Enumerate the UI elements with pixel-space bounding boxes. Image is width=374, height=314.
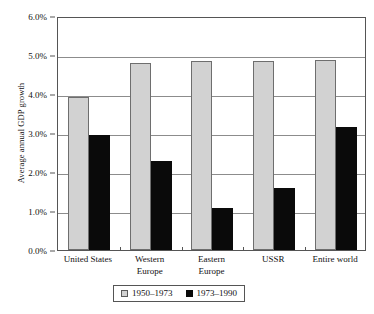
bar <box>315 60 336 250</box>
x-category-label-line: USSR <box>242 254 304 266</box>
bar <box>89 135 110 250</box>
x-category-label-line: Entire world <box>304 254 366 266</box>
bar-group <box>182 18 244 250</box>
x-category-label: USSR <box>242 254 304 266</box>
y-tick-label: 5.0% <box>28 51 47 61</box>
black-square-icon <box>186 290 193 297</box>
legend-label: 1973–1990 <box>197 288 238 298</box>
y-tick-mark <box>50 212 55 213</box>
bar-group <box>243 18 305 250</box>
y-tick-label: 3.0% <box>28 129 47 139</box>
y-tick-label: 0.0% <box>28 246 47 256</box>
x-axis-category-labels: United StatesWesternEuropeEasternEuropeU… <box>57 254 366 288</box>
y-tick-label: 2.0% <box>28 168 47 178</box>
x-category-label: EasternEurope <box>181 254 243 277</box>
y-tick-mark <box>50 95 55 96</box>
y-tick-mark <box>50 134 55 135</box>
y-tick-mark <box>50 17 55 18</box>
y-tick-label: 6.0% <box>28 12 47 22</box>
legend-item: 1950–1973 <box>121 288 173 298</box>
y-axis-tick-labels: 0.0%1.0%2.0%3.0%4.0%5.0%6.0% <box>0 17 55 251</box>
x-category-label: Entire world <box>304 254 366 266</box>
plot-area <box>57 17 366 251</box>
x-category-label-line: Western <box>119 254 181 266</box>
y-tick-mark <box>50 56 55 57</box>
legend-item: 1973–1990 <box>186 288 238 298</box>
x-category-label-line: Eastern <box>181 254 243 266</box>
y-tick-mark <box>50 251 55 252</box>
bar-group <box>120 18 182 250</box>
gdp-growth-bar-chart: Average annual GDP growth 0.0%1.0%2.0%3.… <box>0 0 374 314</box>
bar <box>253 61 274 250</box>
y-tick-label: 4.0% <box>28 90 47 100</box>
x-category-label-line: United States <box>57 254 119 266</box>
bars-layer <box>58 18 365 250</box>
gray-square-icon <box>121 290 128 297</box>
y-tick-mark <box>50 173 55 174</box>
bar-group <box>58 18 120 250</box>
x-category-label-line: Europe <box>181 266 243 278</box>
bar <box>130 63 151 250</box>
bar <box>274 188 295 250</box>
x-category-label: United States <box>57 254 119 266</box>
x-category-label-line: Europe <box>119 266 181 278</box>
chart-legend: 1950–19731973–1990 <box>113 285 245 302</box>
bar <box>336 127 357 250</box>
bar <box>212 208 233 250</box>
bar <box>151 161 172 250</box>
bar-group <box>305 18 367 250</box>
legend-label: 1950–1973 <box>132 288 173 298</box>
y-tick-label: 1.0% <box>28 207 47 217</box>
bar <box>68 97 89 250</box>
x-category-label: WesternEurope <box>119 254 181 277</box>
bar <box>191 61 212 250</box>
